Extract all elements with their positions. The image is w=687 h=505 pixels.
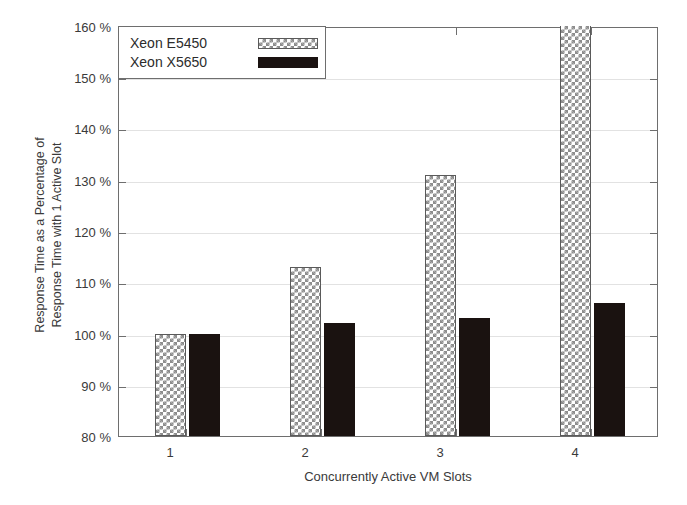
bar-xeon-x5650-slot-2 — [324, 323, 355, 436]
legend-item-xeon-e5450: Xeon E5450 — [130, 33, 318, 53]
x-tick-mark-1-bottom — [186, 429, 187, 436]
legend-label-xeon-e5450: Xeon E5450 — [130, 35, 258, 51]
y-tick-label-110: 110 % — [75, 276, 111, 291]
x-tick-mark-4-top — [591, 28, 592, 35]
y-tick-label-130: 130 % — [74, 174, 111, 189]
y-tick-label-160: 160 % — [74, 20, 111, 35]
legend-item-xeon-x5650: Xeon X5650 — [130, 52, 318, 72]
x-tick-mark-3-top — [456, 28, 457, 35]
y-tick-mark-90-right — [650, 387, 657, 388]
x-tick-mark-4-bottom — [591, 429, 592, 436]
x-tick-label-4: 4 — [560, 445, 590, 460]
y-tick-label-140: 140 % — [74, 122, 111, 137]
y-tick-mark-130-left — [119, 182, 126, 183]
bar-xeon-e5450-slot-2 — [290, 267, 321, 436]
x-tick-mark-3-bottom — [456, 429, 457, 436]
x-tick-label-1: 1 — [155, 445, 185, 460]
x-tick-mark-2-bottom — [321, 429, 322, 436]
bar-xeon-x5650-slot-1 — [189, 334, 220, 437]
y-tick-mark-150-left — [119, 79, 126, 80]
bar-xeon-e5450-slot-3 — [425, 175, 456, 436]
y-tick-label-150: 150 % — [74, 71, 111, 86]
y-tick-label-90: 90 % — [81, 379, 111, 394]
y-axis-title-line-1: Response Time as a Percentage of — [32, 137, 49, 332]
bar-xeon-x5650-slot-4 — [594, 303, 625, 436]
y-axis-title: Response Time as a Percentage of Respons… — [28, 40, 68, 430]
y-tick-mark-130-right — [650, 182, 657, 183]
y-tick-mark-90-left — [119, 387, 126, 388]
y-tick-mark-100-left — [119, 336, 126, 337]
bar-xeon-e5450-slot-1 — [155, 334, 186, 437]
bar-chart: Response Time as a Percentage of Respons… — [0, 0, 687, 505]
y-tick-mark-150-right — [650, 79, 657, 80]
y-tick-mark-110-right — [650, 284, 657, 285]
y-tick-label-80: 80 % — [81, 430, 111, 445]
x-tick-label-3: 3 — [425, 445, 455, 460]
legend: Xeon E5450 Xeon X5650 — [118, 26, 326, 79]
y-tick-mark-120-left — [119, 233, 126, 234]
x-axis-title: Concurrently Active VM Slots — [118, 469, 658, 484]
x-tick-label-2: 2 — [290, 445, 320, 460]
legend-swatch-hatched-icon — [258, 38, 318, 49]
y-axis-title-line-2: Response Time with 1 Active Slot — [48, 137, 65, 332]
bar-xeon-e5450-slot-4 — [560, 26, 591, 436]
y-tick-mark-110-left — [119, 284, 126, 285]
y-tick-label-120: 120 % — [74, 225, 111, 240]
y-tick-mark-120-right — [650, 233, 657, 234]
plot-area — [118, 27, 658, 437]
y-tick-mark-140-left — [119, 130, 126, 131]
legend-label-xeon-x5650: Xeon X5650 — [130, 54, 258, 70]
y-tick-mark-140-right — [650, 130, 657, 131]
y-tick-label-100: 100 % — [74, 328, 111, 343]
bar-xeon-x5650-slot-3 — [459, 318, 490, 436]
legend-swatch-solid-icon — [258, 57, 318, 68]
y-tick-mark-100-right — [650, 336, 657, 337]
